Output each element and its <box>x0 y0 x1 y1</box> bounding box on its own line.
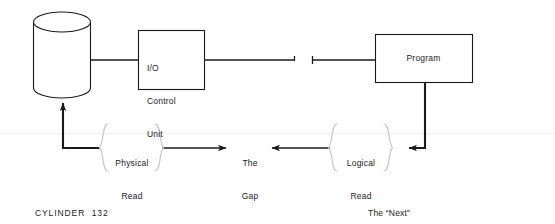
the-gap-label-line2: Gap <box>232 191 268 202</box>
diagram-canvas: I/O Control Unit Program Physical Read T… <box>0 0 555 224</box>
disk-address-line1: CYLINDER 132 <box>35 208 109 220</box>
next-record-annotation: The “Next” Record <box>368 186 410 224</box>
the-gap-label: The Gap <box>232 136 268 224</box>
next-record-line1: The “Next” <box>368 208 410 219</box>
connector-program-to-logical-read <box>409 83 425 149</box>
the-gap-label-line1: The <box>232 158 268 169</box>
connector-physical-read-to-disk <box>63 103 100 148</box>
io-control-unit-label-line2: Control <box>147 96 176 107</box>
program-label: Program <box>375 53 472 64</box>
logical-read-label-line1: Logical <box>338 158 384 169</box>
disk-cylinder <box>34 12 91 98</box>
physical-read-label-line2: Read <box>108 191 156 202</box>
physical-read-label-line1: Physical <box>108 158 156 169</box>
disk-address-annotation: CYLINDER 132 TRACK 12 COUNT 5 <box>35 185 109 224</box>
physical-read-label: Physical Read <box>108 136 156 224</box>
io-control-unit-label-line1: I/O <box>147 63 176 74</box>
